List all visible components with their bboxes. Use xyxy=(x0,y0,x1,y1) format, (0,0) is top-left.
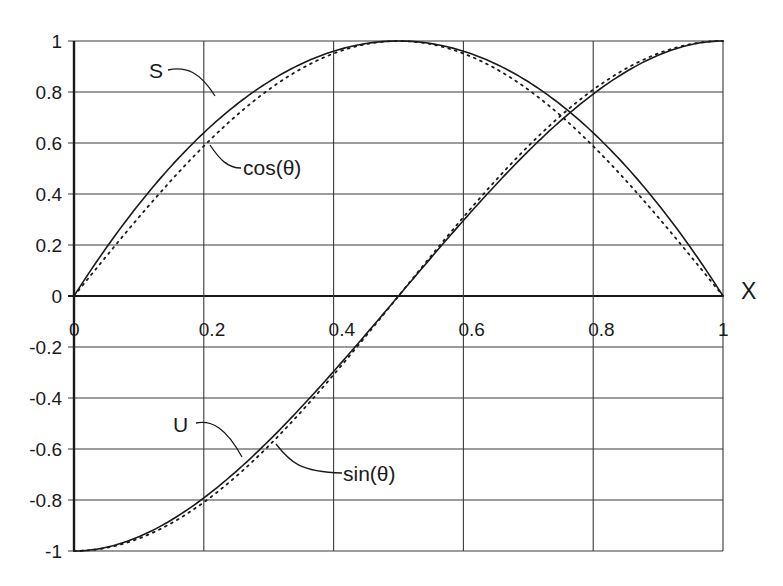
label-s: S xyxy=(149,59,163,82)
y-tick-label: 1 xyxy=(51,31,62,52)
annotation-leader-lines xyxy=(168,69,342,473)
series-cos xyxy=(74,41,723,296)
leader-sin xyxy=(276,444,342,473)
y-tick-labels: 10.80.60.40.20-0.2-0.4-0.6-0.8-1 xyxy=(29,31,62,562)
x-tick-label: 0.2 xyxy=(199,319,225,340)
y-tick-label: 0.6 xyxy=(36,133,62,154)
x-tick-label: 0 xyxy=(69,319,80,340)
y-tick-label: -1 xyxy=(45,541,62,562)
y-tick-label: -0.2 xyxy=(29,337,62,358)
y-tick-label: 0 xyxy=(51,286,62,307)
series-s xyxy=(74,41,723,296)
y-tick-label: -0.6 xyxy=(29,439,62,460)
label-sin: sin(θ) xyxy=(343,462,396,485)
leader-cos xyxy=(210,145,241,168)
x-tick-label: 0.8 xyxy=(588,319,614,340)
y-tick-label: 0.4 xyxy=(36,184,63,205)
x-tick-label: 0.6 xyxy=(458,319,484,340)
x-tick-labels: 00.20.40.60.81 xyxy=(69,319,729,340)
y-tick-label: 0.2 xyxy=(36,235,62,256)
y-tick-label: -0.4 xyxy=(29,388,62,409)
leader-u xyxy=(196,422,242,457)
chart: 10.80.60.40.20-0.2-0.4-0.6-0.8-1 00.20.4… xyxy=(0,0,783,586)
x-axis-name: X xyxy=(741,278,756,304)
x-tick-label: 0.4 xyxy=(329,319,356,340)
label-u: U xyxy=(173,413,188,436)
y-tick-label: 0.8 xyxy=(36,82,62,103)
x-tick-label: 1 xyxy=(718,319,729,340)
label-cos: cos(θ) xyxy=(243,156,301,179)
y-tick-label: -0.8 xyxy=(29,490,62,511)
